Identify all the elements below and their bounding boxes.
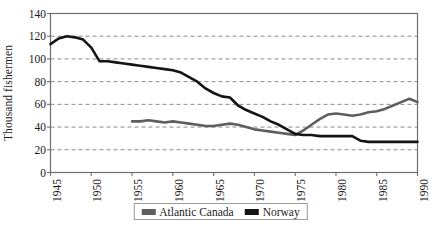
legend-swatch-icon bbox=[141, 209, 155, 215]
chart-legend: Atlantic CanadaNorway bbox=[133, 203, 307, 220]
chart-figure: Thousand fishermen 020406080100120140 19… bbox=[0, 0, 441, 230]
legend-label: Atlantic Canada bbox=[159, 206, 233, 218]
legend-swatch-icon bbox=[245, 209, 259, 215]
legend-item: Norway bbox=[245, 206, 300, 218]
series-line-norway bbox=[51, 36, 418, 142]
plot-area bbox=[0, 0, 441, 230]
plot-frame bbox=[51, 14, 418, 173]
legend-label: Norway bbox=[263, 206, 300, 218]
legend-item: Atlantic Canada bbox=[141, 206, 233, 218]
